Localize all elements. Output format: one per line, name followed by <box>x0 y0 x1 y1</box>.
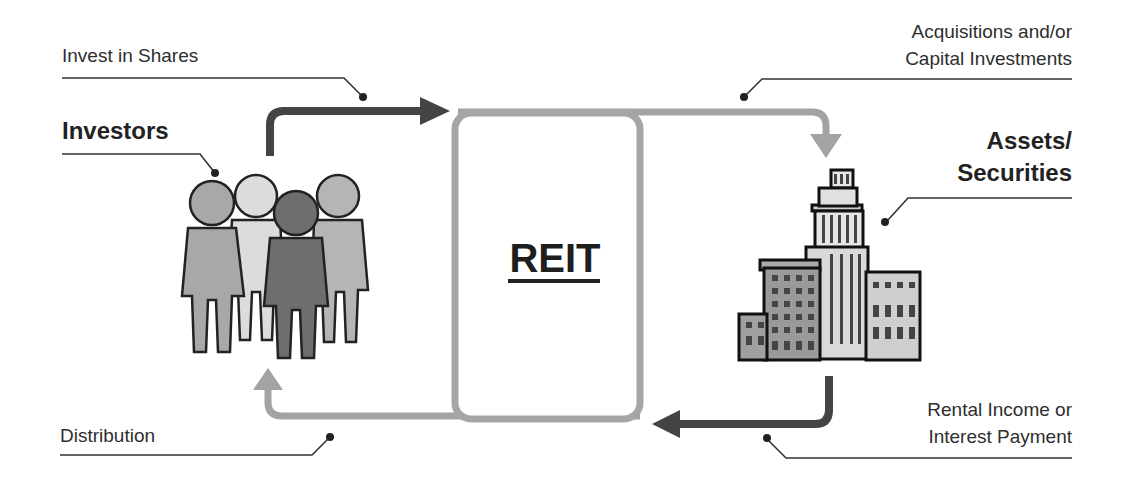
invest-arrow-path <box>270 111 420 156</box>
leader-invest <box>62 78 363 97</box>
leader-assets <box>888 198 1072 220</box>
reit-underline <box>508 279 600 283</box>
acquisition-arrowhead <box>810 134 842 158</box>
leader-dot <box>359 93 367 101</box>
invest-arrowhead <box>420 97 450 125</box>
investors-label: Investors <box>62 116 169 146</box>
leader-dot <box>326 433 334 441</box>
leader-dot <box>740 93 748 101</box>
income-arrow-path <box>676 376 829 424</box>
leader-dot <box>763 434 771 442</box>
leader-investors <box>62 154 215 173</box>
leader-dot <box>881 218 889 226</box>
assets-label-line2: Securities <box>957 158 1072 188</box>
office-buildings-icon <box>739 170 920 360</box>
reit-label: REIT <box>500 236 610 281</box>
group-of-people-icon <box>182 175 368 358</box>
invest-in-shares-label: Invest in Shares <box>62 44 198 68</box>
acquisitions-label-line2: Capital Investments <box>905 47 1072 71</box>
acquisitions-label-line1: Acquisitions and/or <box>911 20 1072 44</box>
distribution-arrowhead <box>253 368 283 390</box>
rental-income-label-line2: Interest Payment <box>928 425 1072 449</box>
assets-label-line1: Assets/ <box>987 126 1072 156</box>
rental-income-label-line1: Rental Income or <box>927 398 1072 422</box>
leader-dot <box>211 169 219 177</box>
distribution-label: Distribution <box>60 424 155 448</box>
income-arrowhead <box>652 410 680 438</box>
leader-acquisitions <box>744 79 1072 97</box>
